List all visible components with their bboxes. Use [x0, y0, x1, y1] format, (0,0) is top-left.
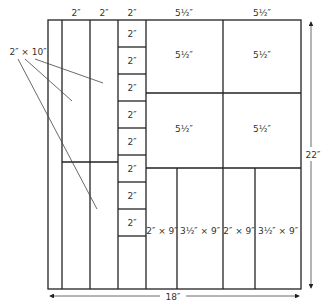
top-label: 5½″ — [253, 8, 271, 18]
square-label: 2″ — [127, 29, 137, 39]
square-label: 2″ — [127, 110, 137, 120]
width-label: 18″ — [166, 292, 181, 302]
square-label: 2″ — [127, 137, 137, 147]
top-label: 2″ — [71, 8, 81, 18]
square-label: 2″ — [127, 83, 137, 93]
bottom-rect-label: 3½″ × 9″ — [180, 226, 221, 236]
square-label: 2″ — [127, 56, 137, 66]
bottom-rect-label: 2″ × 9″ — [146, 226, 178, 236]
strip-callout: 2″ × 10″ — [9, 47, 47, 57]
big-square-label: 5½″ — [253, 124, 271, 134]
square-label: 2″ — [127, 191, 137, 201]
big-square-label: 5½″ — [175, 124, 193, 134]
square-label: 2″ — [127, 164, 137, 174]
outer-border — [48, 20, 301, 289]
square-label: 2″ — [127, 218, 137, 228]
top-label: 2″ — [99, 8, 109, 18]
quilt-diagram: 2″ 2″ 2″ 5½″ 5½″ 2″ × 10″ 2″ 2″ 2″ 2″ 2″… — [0, 0, 326, 305]
bottom-rect-label: 2″ × 9″ — [223, 226, 255, 236]
top-label: 5½″ — [175, 8, 193, 18]
height-label: 22″ — [306, 150, 321, 160]
big-square-label: 5½″ — [175, 50, 193, 60]
big-square-label: 5½″ — [253, 50, 271, 60]
top-label: 2″ — [127, 8, 137, 18]
bottom-rect-label: 3½″ × 9″ — [258, 226, 299, 236]
